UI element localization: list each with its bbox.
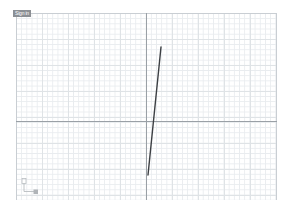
drawing-layer[interactable] — [16, 13, 277, 200]
grid-canvas[interactable] — [16, 13, 277, 200]
origin-axis-marker — [20, 178, 42, 198]
x-axis-handle — [34, 190, 39, 195]
line-segment[interactable] — [148, 47, 161, 175]
layer-name-badge[interactable]: Sign in — [13, 10, 31, 17]
app-root: Sign in — [0, 0, 293, 212]
origin-axis-glyph — [22, 179, 38, 195]
y-axis-handle — [22, 179, 26, 184]
